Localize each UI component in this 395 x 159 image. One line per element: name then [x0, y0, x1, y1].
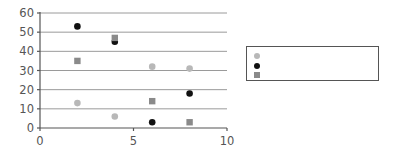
legend-circle-marker [254, 63, 260, 69]
x-tick-label: 10 [220, 134, 235, 148]
data-point-square [149, 98, 155, 104]
data-point-circle [74, 100, 81, 107]
data-point-circle [74, 23, 81, 30]
x-axis-ticks: 0510 [36, 128, 234, 148]
data-point-circle [112, 113, 119, 120]
legend [246, 46, 379, 81]
y-tick-label: 30 [19, 64, 34, 78]
y-tick-label: 50 [19, 25, 34, 39]
data-point-square [74, 58, 80, 64]
data-point-circle [186, 90, 193, 97]
scatter-chart: 0102030405060 0510 [0, 0, 240, 159]
legend-circle-marker [254, 53, 260, 59]
y-tick-label: 60 [19, 6, 34, 20]
x-tick-label: 0 [36, 134, 43, 148]
y-tick-label: 20 [19, 83, 34, 97]
y-tick-label: 0 [27, 121, 34, 135]
data-point-circle [149, 63, 156, 70]
x-tick-label: 5 [130, 134, 137, 148]
y-tick-label: 40 [19, 44, 34, 58]
gridlines [40, 13, 227, 109]
data-point-square [112, 35, 118, 41]
y-axis-ticks: 0102030405060 [19, 6, 40, 135]
data-point-circle [149, 119, 156, 126]
y-tick-label: 10 [19, 102, 34, 116]
data-points [74, 23, 193, 125]
data-point-circle [186, 65, 193, 72]
legend-square-marker [254, 72, 260, 78]
data-point-square [186, 119, 192, 125]
